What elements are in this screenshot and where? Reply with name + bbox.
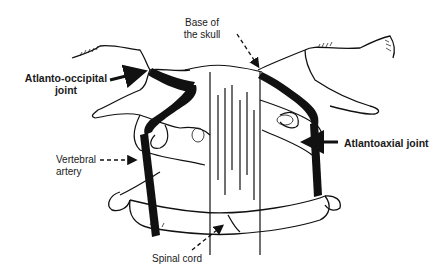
skull-base-right bbox=[258, 36, 394, 114]
label-atlanto-occipital-joint: Atlanto-occipital joint bbox=[18, 72, 114, 96]
label-line: Atlanto-occipital bbox=[18, 72, 114, 84]
axis-body bbox=[109, 192, 341, 235]
label-line: Vertebral bbox=[56, 154, 96, 166]
label-base-of-skull: Base of the skull bbox=[172, 17, 232, 41]
label-line: Base of bbox=[172, 17, 232, 29]
label-spinal-cord: Spinal cord bbox=[152, 253, 202, 265]
arrow-spinal-cord bbox=[192, 226, 222, 250]
label-vertebral-artery: Vertebral artery bbox=[56, 154, 96, 178]
central-column bbox=[185, 65, 262, 255]
label-line: joint bbox=[18, 84, 114, 96]
arrow-atlanto-occipital bbox=[110, 72, 142, 80]
spine-diagram: Base of the skull Atlanto-occipital join… bbox=[0, 0, 446, 275]
arrow-base-of-skull bbox=[237, 34, 258, 66]
label-line: the skull bbox=[172, 29, 232, 41]
vertebral-artery-left bbox=[140, 68, 197, 237]
vertebral-artery-right bbox=[258, 72, 322, 197]
hatching bbox=[80, 40, 391, 227]
joint-texture bbox=[192, 115, 293, 142]
label-atlantoaxial-joint: Atlantoaxial joint bbox=[344, 137, 429, 149]
label-line: artery bbox=[56, 166, 96, 178]
